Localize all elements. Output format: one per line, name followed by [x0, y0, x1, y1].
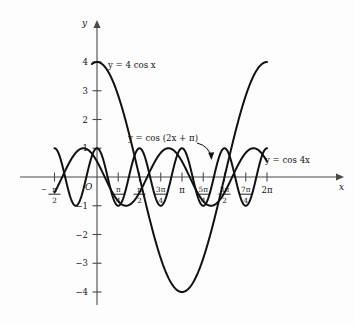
x-tick-numerator: 5π	[199, 185, 209, 194]
x-tick-denominator: 2	[52, 196, 57, 205]
leader-line-cos-2x-plus-pi	[197, 143, 211, 157]
origin-label: O	[85, 182, 93, 192]
x-axis-arrowhead	[336, 173, 344, 180]
graph-figure: 4321−1−2−3−4 −π2π4π23π4π5π43π27π42π y x …	[0, 0, 355, 325]
label-curve-cos-2x-plus-pi: y = cos (2x + π)	[127, 133, 198, 143]
x-tick-sign: −	[41, 185, 47, 194]
x-tick-label: 2π	[262, 185, 273, 195]
leader-arrowhead	[208, 152, 214, 160]
x-tick-numerator: π	[116, 185, 121, 194]
y-tick-label: −2	[75, 230, 88, 240]
x-tick-numerator: 7π	[241, 185, 251, 194]
y-tick-label: 2	[83, 115, 88, 125]
cosine-plot-svg: 4321−1−2−3−4 −π2π4π23π4π5π43π27π42π y x …	[0, 0, 355, 325]
y-axis-label: y	[81, 18, 88, 28]
x-tick-value: π	[179, 185, 185, 195]
label-curve-4-cos-x: y = 4 cos x	[107, 60, 156, 70]
y-tick-label: −4	[75, 287, 88, 297]
x-axis-label: x	[339, 182, 344, 192]
x-tick-label: π	[179, 185, 185, 195]
y-tick-label: 3	[83, 86, 88, 96]
y-tick-label: 4	[83, 57, 88, 67]
x-tick-value: 2π	[262, 185, 273, 195]
label-curve-cos-4x: y = cos 4x	[264, 155, 310, 165]
y-tick-label: −3	[75, 258, 88, 268]
y-axis-arrowhead	[93, 20, 100, 28]
x-tick-numerator: 3π	[156, 185, 166, 194]
